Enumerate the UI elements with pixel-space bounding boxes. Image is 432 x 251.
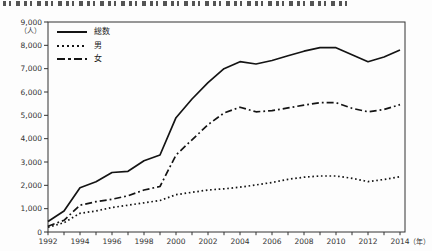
solid-line-icon: [57, 31, 87, 33]
x-axis-tick-label: 2008: [294, 237, 313, 246]
x-axis-tick-label: 2012: [358, 237, 377, 246]
y-axis-tick-label: 3,000: [21, 158, 43, 167]
x-axis-tick-label: 2014: [390, 237, 409, 246]
x-axis-tick-label: 2000: [166, 237, 185, 246]
clipped-title-text: [3, 1, 348, 6]
legend-label-male: 男: [94, 42, 102, 50]
x-axis-tick-label: 2006: [262, 237, 281, 246]
legend-label-female: 女: [94, 55, 102, 63]
x-axis-tick-label: 2010: [326, 237, 345, 246]
y-axis-tick-label: 1,000: [21, 204, 43, 213]
y-axis-tick-label: 4,000: [21, 134, 43, 143]
y-axis-tick-label: 9,000: [21, 18, 43, 27]
dotted-line-icon: [57, 45, 87, 47]
legend-label-total: 総数: [94, 28, 110, 36]
y-axis-tick-label: 2,000: [21, 181, 43, 190]
y-axis-unit-label: （人）: [20, 27, 41, 35]
x-axis-tick-label: 1992: [38, 237, 57, 246]
x-axis-unit-label: （年）: [409, 237, 430, 246]
y-axis-tick-label: 6,000: [21, 88, 43, 97]
y-axis-tick-label: 0: [37, 228, 42, 237]
x-axis-tick-label: 2002: [198, 237, 217, 246]
legend-item-male: 男: [57, 42, 110, 50]
x-axis-tick-label: 1998: [134, 237, 153, 246]
x-axis-tick-label: 1996: [102, 237, 121, 246]
legend-item-female: 女: [57, 55, 110, 63]
series-line-solid: [48, 48, 400, 222]
dashdot-line-icon: [57, 58, 87, 60]
x-axis-tick-label: 2004: [230, 237, 249, 246]
series-line-dashdot: [48, 103, 400, 227]
chart-figure: 01,0002,0003,0004,0005,0006,0007,0008,00…: [0, 0, 432, 251]
chart-legend: 総数 男 女: [57, 28, 110, 63]
y-axis-tick-label: 5,000: [21, 111, 43, 120]
y-axis-tick-label: 7,000: [21, 64, 43, 73]
x-axis-tick-label: 1994: [70, 237, 89, 246]
legend-item-total: 総数: [57, 28, 110, 36]
y-axis-tick-label: 8,000: [21, 41, 43, 50]
